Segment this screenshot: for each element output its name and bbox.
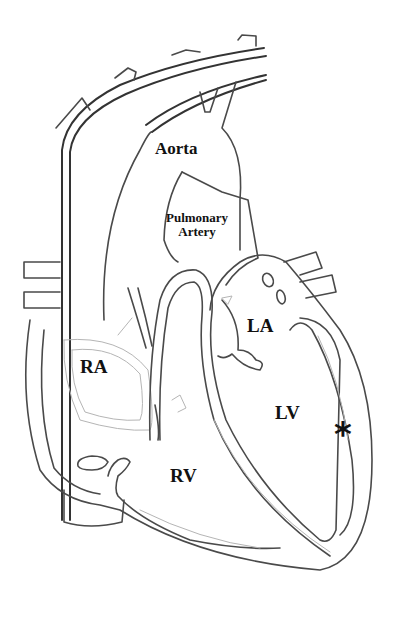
label-pulmonary-artery: Pulmonary Artery [166, 211, 228, 240]
heart-illustration [0, 0, 402, 618]
asterisk-marker-icon: * [334, 417, 352, 451]
right-atrium-wall [64, 318, 152, 430]
label-left-atrium: LA [247, 316, 273, 335]
heart-outline [26, 255, 372, 570]
label-aorta: Aorta [155, 140, 197, 157]
aortic-arch [56, 35, 266, 520]
label-right-ventricle: RV [170, 466, 197, 485]
label-left-ventricle: LV [275, 403, 300, 422]
label-right-atrium: RA [80, 357, 107, 376]
label-pulmonary-artery-line1: Pulmonary [166, 211, 228, 225]
interventricular-septum [150, 270, 340, 556]
heart-diagram: Aorta Pulmonary Artery LA RA LV RV * [0, 0, 402, 618]
label-pulmonary-artery-line2: Artery [166, 225, 228, 239]
